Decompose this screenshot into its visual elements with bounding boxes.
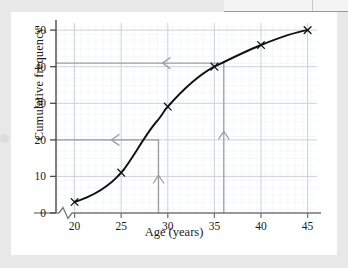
toolbar-divider xyxy=(312,0,313,11)
screenshot-root: 0 10 20 30 40 50 20 25 30 35 40 45 Cumul… xyxy=(0,0,348,268)
y-tick-label: 10 xyxy=(35,170,47,182)
plot-minor-grid xyxy=(56,23,317,213)
top-toolbar-strip xyxy=(224,0,348,12)
cumulative-frequency-chart: 0 10 20 30 40 50 20 25 30 35 40 45 xyxy=(11,12,337,255)
y-axis-title: Cumulative frequency xyxy=(32,9,47,159)
x-axis-ticks xyxy=(75,213,308,218)
left-edge-marker xyxy=(0,134,9,143)
y-axis-ticks xyxy=(50,30,56,213)
figure-panel: 0 10 20 30 40 50 20 25 30 35 40 45 Cumul… xyxy=(11,12,337,255)
y-tick-label: 0 xyxy=(40,207,46,219)
x-axis-title: Age (years) xyxy=(11,225,337,240)
